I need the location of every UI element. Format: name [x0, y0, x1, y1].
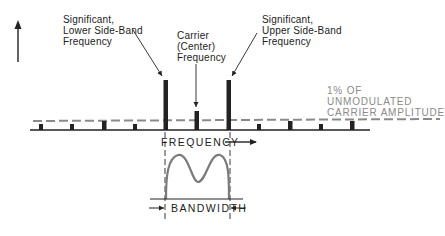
threshold-dashed-line — [33, 119, 440, 121]
bandwidth-label: BANDWIDTH — [171, 203, 247, 214]
lower-sideband-label: Significant, Lower Side-Band Frequency — [63, 14, 143, 47]
upper-sideband-pointer — [232, 33, 257, 76]
carrier-label: Carrier (Center) Frequency — [177, 30, 226, 63]
bandpass-response-curve — [166, 155, 229, 199]
frequency-axis-label: FREQUENCY — [161, 137, 240, 148]
threshold-label: 1% OF UNMODULATED CARRIER AMPLITUDE — [327, 85, 445, 118]
upper-sideband-label: Significant, Upper Side-Band Frequency — [262, 14, 342, 47]
spectral-lines — [39, 80, 355, 130]
amplitude-arrow-icon — [15, 20, 22, 62]
